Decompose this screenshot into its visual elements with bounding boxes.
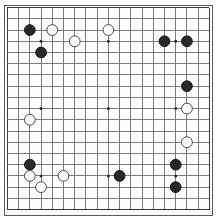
star-point — [174, 40, 177, 43]
stone-white[interactable]: E17 — [47, 25, 58, 36]
stone-white[interactable]: G16 — [69, 36, 80, 47]
star-point — [40, 107, 43, 110]
stone-black[interactable]: Q5 — [170, 159, 181, 170]
star-point — [40, 40, 43, 43]
star-point — [107, 40, 110, 43]
stone-black[interactable]: C17 — [24, 25, 35, 36]
stone-black[interactable]: L4 — [114, 171, 125, 182]
go-board[interactable]: C17E17K17G16P16R16D15R12R10C9R7C5Q5C4F4L… — [0, 0, 218, 222]
stone-white[interactable]: K17 — [103, 25, 114, 36]
stone-black[interactable]: R12 — [182, 81, 193, 92]
stone-white[interactable]: R10 — [182, 103, 193, 114]
stone-white[interactable]: C4 — [24, 171, 35, 182]
stone-white[interactable]: F4 — [58, 171, 69, 182]
go-board-app: C17E17K17G16P16R16D15R12R10C9R7C5Q5C4F4L… — [0, 0, 218, 222]
star-point — [40, 174, 43, 177]
stone-black[interactable]: R16 — [182, 36, 193, 47]
stone-black[interactable]: Q3 — [170, 182, 181, 193]
stone-white[interactable]: D3 — [36, 182, 47, 193]
stone-black[interactable]: C5 — [24, 159, 35, 170]
star-point — [174, 107, 177, 110]
stone-black[interactable]: P16 — [159, 36, 170, 47]
star-point — [107, 174, 110, 177]
star-point — [174, 174, 177, 177]
board-canvas[interactable]: C17E17K17G16P16R16D15R12R10C9R7C5Q5C4F4L… — [0, 0, 218, 222]
stone-white[interactable]: R7 — [182, 137, 193, 148]
stone-black[interactable]: D15 — [36, 47, 47, 58]
star-point — [107, 107, 110, 110]
stone-white[interactable]: C9 — [24, 114, 35, 125]
